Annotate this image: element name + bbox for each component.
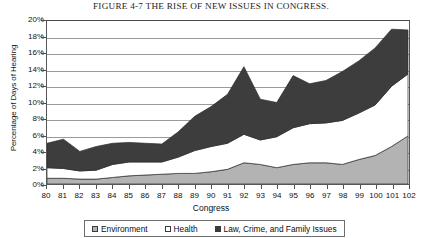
x-tick-label: 90 [207, 190, 216, 201]
y-tick-label: 12% [14, 81, 44, 91]
x-tick-mark [343, 185, 344, 189]
x-tick-label: 80 [42, 190, 51, 201]
x-tick-label: 102 [402, 190, 415, 201]
x-tick-mark [211, 185, 212, 189]
legend-label: Environment [101, 224, 148, 234]
x-tick-mark [129, 185, 130, 189]
x-tick-mark [195, 185, 196, 189]
y-tick-mark [41, 152, 46, 153]
y-axis-ticks: 0%2%4%6%8%10%12%14%16%18%20% [14, 13, 44, 193]
stacked-area-chart [47, 21, 409, 184]
legend-item: Health [165, 221, 198, 236]
y-tick-mark [41, 86, 46, 87]
x-tick-label: 89 [190, 190, 199, 201]
y-tick-mark [41, 70, 46, 71]
legend-item: Law, Crime, and Family Issues [215, 221, 337, 236]
x-tick-mark [46, 185, 47, 189]
x-tick-mark [63, 185, 64, 189]
y-tick-label: 2% [14, 164, 44, 174]
x-tick-mark [327, 185, 328, 189]
x-tick-mark [294, 185, 295, 189]
x-tick-mark [393, 185, 394, 189]
y-tick-mark [41, 185, 46, 186]
x-tick-label: 100 [369, 190, 382, 201]
x-tick-label: 93 [256, 190, 265, 201]
x-tick-label: 83 [91, 190, 100, 201]
x-tick-mark [162, 185, 163, 189]
x-tick-label: 98 [339, 190, 348, 201]
legend-item: Environment [92, 221, 148, 236]
x-tick-mark [244, 185, 245, 189]
x-tick-mark [376, 185, 377, 189]
y-tick-label: 8% [14, 114, 44, 124]
x-axis-title: Congress [0, 202, 422, 214]
legend-label: Law, Crime, and Family Issues [224, 224, 337, 234]
y-tick-mark [41, 119, 46, 120]
y-tick-label: 18% [14, 32, 44, 42]
x-tick-label: 82 [75, 190, 84, 201]
legend-label: Health [174, 224, 198, 234]
x-tick-label: 101 [386, 190, 399, 201]
x-tick-label: 91 [223, 190, 232, 201]
x-tick-mark [310, 185, 311, 189]
x-tick-label: 86 [141, 190, 150, 201]
y-tick-mark [41, 169, 46, 170]
legend-swatch-icon [215, 226, 221, 232]
x-tick-label: 87 [157, 190, 166, 201]
x-tick-label: 94 [273, 190, 282, 201]
y-tick-mark [41, 136, 46, 137]
figure-title: FIGURE 4-7 THE RISE OF NEW ISSUES IN CON… [0, 0, 422, 13]
x-tick-mark [261, 185, 262, 189]
y-tick-label: 20% [14, 15, 44, 25]
legend-swatch-icon [92, 226, 98, 232]
figure-container: FIGURE 4-7 THE RISE OF NEW ISSUES IN CON… [0, 0, 422, 238]
y-tick-mark [41, 20, 46, 21]
chart-area: Percentage of Days of Hearing 0%2%4%6%8%… [0, 13, 422, 238]
x-tick-mark [360, 185, 361, 189]
x-tick-label: 95 [289, 190, 298, 201]
y-tick-mark [41, 103, 46, 104]
x-tick-label: 97 [322, 190, 331, 201]
x-tick-mark [96, 185, 97, 189]
x-tick-label: 85 [124, 190, 133, 201]
legend-swatch-icon [165, 226, 171, 232]
x-tick-mark [178, 185, 179, 189]
x-tick-label: 92 [240, 190, 249, 201]
x-tick-label: 96 [306, 190, 315, 201]
x-tick-label: 88 [174, 190, 183, 201]
plot-region [46, 20, 410, 185]
y-tick-mark [41, 53, 46, 54]
x-tick-label: 81 [58, 190, 67, 201]
x-tick-mark [228, 185, 229, 189]
y-tick-label: 14% [14, 65, 44, 75]
x-tick-mark [409, 185, 410, 189]
x-tick-mark [112, 185, 113, 189]
y-tick-label: 6% [14, 131, 44, 141]
x-tick-mark [145, 185, 146, 189]
chart-legend: EnvironmentHealthLaw, Crime, and Family … [84, 220, 345, 237]
x-tick-mark [277, 185, 278, 189]
x-tick-mark [79, 185, 80, 189]
y-tick-mark [41, 37, 46, 38]
y-tick-label: 0% [14, 180, 44, 190]
x-tick-label: 84 [108, 190, 117, 201]
y-tick-label: 16% [14, 48, 44, 58]
y-tick-label: 4% [14, 147, 44, 157]
y-tick-label: 10% [14, 98, 44, 108]
x-tick-label: 99 [355, 190, 364, 201]
